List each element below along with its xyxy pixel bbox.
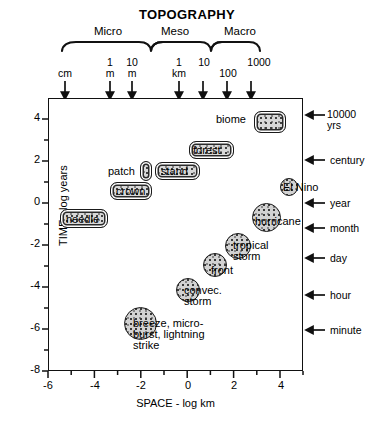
data-marker-biome: [254, 111, 286, 133]
y-tick-label-neg6: -6: [18, 322, 40, 333]
data-label-convective-storm: convec. storm: [184, 285, 222, 306]
data-label-breeze-microburst-lightning: breeze, micro- burst, lightning strike: [133, 318, 205, 351]
right-annotation-year: year: [330, 198, 350, 209]
top-scale-label-cm: cm: [48, 68, 82, 79]
y-tick-label-2: 2: [22, 154, 40, 165]
right-annotation-hour: hour: [330, 290, 351, 301]
right-annotation-10000-yrs: 10000 yrs: [327, 109, 356, 131]
data-label-forest: forest: [193, 145, 221, 156]
brace-label-meso: Meso: [145, 26, 205, 38]
y-axis-ticks: [40, 94, 56, 380]
top-scale-label-100: 100: [213, 68, 243, 79]
data-label-stand: stand: [161, 166, 188, 177]
space-time-scale-figure: TOPOGRAPHY Micro Meso Macro cm 1 m 10 m …: [0, 0, 374, 421]
y-axis-label: TIME - log years: [58, 136, 69, 276]
data-label-tropical-storm: tropical storm: [233, 240, 268, 261]
x-tick-label-2: 2: [224, 380, 244, 391]
x-tick-label-4: 4: [271, 380, 291, 391]
data-label-biome: biome: [216, 114, 246, 125]
y-tick-label-neg2: -2: [18, 238, 40, 249]
x-tick-label-neg6: -6: [38, 380, 58, 391]
figure-title: TOPOGRAPHY: [0, 8, 374, 21]
right-annotation-century: century: [330, 155, 364, 166]
right-annotation-month: month: [330, 223, 359, 234]
right-annotation-day: day: [330, 253, 347, 264]
right-annotation-minute: minute: [330, 325, 362, 336]
x-tick-label-neg4: -4: [85, 380, 105, 391]
x-axis-label: SPACE - log km: [48, 398, 303, 409]
y-tick-label-4: 4: [22, 112, 40, 123]
y-tick-label-neg8: -8: [18, 364, 40, 375]
y-tick-label-0: 0: [22, 196, 40, 207]
data-label-crown: crown: [116, 186, 145, 197]
data-label-hurricane: hurricane: [255, 216, 301, 227]
top-scale-label-10m: 10 m: [118, 57, 146, 78]
right-annotation-arrows: [303, 100, 329, 350]
x-tick-label-neg2: -2: [131, 380, 151, 391]
brace-label-micro: Micro: [78, 26, 138, 38]
data-marker-patch: [140, 161, 152, 181]
brace-label-macro: Macro: [209, 26, 271, 38]
top-scale-arrows: [0, 80, 374, 100]
data-label-front: front: [211, 265, 233, 276]
topography-braces: [0, 38, 374, 54]
top-scale-label-1km: 1 km: [165, 57, 193, 78]
y-tick-label-neg4: -4: [18, 280, 40, 291]
x-tick-label-0: 0: [178, 380, 198, 391]
top-scale-label-1000: 1000: [240, 57, 278, 68]
top-scale-label-10: 10: [191, 57, 217, 68]
data-label-needle: needle: [66, 214, 99, 225]
data-label-patch: patch: [108, 166, 135, 177]
